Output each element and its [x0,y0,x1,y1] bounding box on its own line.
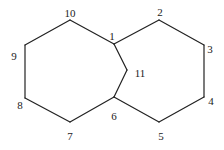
atom-label-2: 2 [157,6,163,18]
atom-labels: 1234567891011 [11,6,214,142]
atom-label-8: 8 [17,99,23,111]
bond-4-5 [159,97,204,122]
bond-6-7 [70,97,114,122]
bond-11-6 [114,70,127,97]
atom-label-5: 5 [158,130,164,142]
atom-label-1: 1 [109,30,115,42]
bond-1-2 [114,20,159,44]
bond-10-1 [70,20,114,44]
ring-diagram: 1234567891011 [0,0,224,150]
atom-label-4: 4 [208,95,214,107]
bond-5-6 [114,97,159,122]
atom-label-11: 11 [135,67,146,79]
atom-label-7: 7 [67,130,73,142]
bond-1-11 [114,44,127,70]
atom-label-6: 6 [111,110,117,122]
bond-7-8 [25,98,70,122]
atom-label-3: 3 [207,43,213,55]
atom-label-10: 10 [65,7,77,19]
bond-9-10 [25,20,70,45]
bond-2-3 [159,20,204,45]
atom-label-9: 9 [11,50,17,62]
